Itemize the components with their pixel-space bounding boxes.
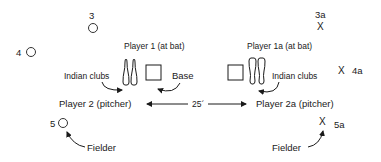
clubs-right-pointer-arrow — [259, 82, 279, 92]
indian-clubs-left-label: Indian clubs — [64, 71, 109, 81]
position-5-number: 5 — [50, 118, 55, 129]
position-4-circle — [27, 48, 36, 57]
position-4a-number: 4a — [352, 65, 363, 76]
position-4-number: 4 — [16, 47, 21, 58]
player-2-label: Player 2 (pitcher) — [59, 98, 131, 109]
indian-clubs-right-icon — [249, 58, 265, 84]
position-3-circle — [89, 24, 98, 33]
fielder-left-label: Fielder — [87, 142, 116, 153]
player-1a-label: Player 1a (at bat) — [247, 41, 312, 51]
indian-clubs-right-label: Indian clubs — [272, 71, 317, 81]
position-5a-number: 5a — [334, 119, 345, 130]
position-3-number: 3 — [89, 10, 94, 21]
position-3a-number: 3a — [315, 9, 326, 20]
position-3a-marker: X — [317, 21, 324, 32]
position-5a-marker: X — [319, 116, 326, 127]
player-1-label: Player 1 (at bat) — [124, 41, 185, 51]
base-left-icon — [146, 65, 161, 80]
baseball-clubs-diagram: 3 4 Player 1 (at bat) Indian clubs Base … — [0, 0, 381, 162]
clubs-left-pointer-arrow — [102, 82, 122, 90]
position-4a-marker: X — [338, 65, 345, 76]
player-2a-label: Player 2a (pitcher) — [256, 98, 334, 109]
fielder-right-pointer-arrow — [308, 131, 323, 147]
indian-clubs-left-icon — [123, 59, 137, 85]
position-5-circle — [59, 119, 68, 128]
base-label: Base — [172, 70, 194, 81]
distance-label: 25´ — [192, 99, 204, 109]
fielder-left-pointer-arrow — [67, 132, 85, 147]
base-right-icon — [228, 65, 243, 80]
base-pointer-arrow — [158, 83, 180, 91]
fielder-right-label: Fielder — [272, 142, 301, 153]
